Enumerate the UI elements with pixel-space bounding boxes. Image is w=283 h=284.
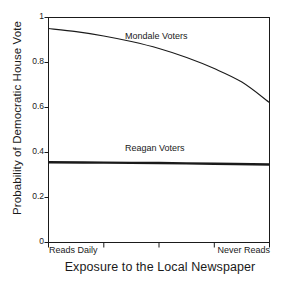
series-line-reagan — [49, 162, 270, 164]
series-label-mondale: Mondale Voters — [125, 31, 188, 41]
series-label-reagan: Reagan Voters — [125, 143, 185, 153]
plot-frame — [49, 18, 270, 243]
y-tick-marks — [45, 18, 49, 243]
x-axis-title: Exposure to the Local Newspaper — [44, 260, 276, 274]
x-category-never-reads: Never Reads — [217, 245, 270, 255]
plot-area — [0, 0, 283, 284]
x-category-reads-daily: Reads Daily — [49, 245, 98, 255]
chart-figure: Probability of Democratic House Vote 1 0… — [0, 0, 283, 284]
